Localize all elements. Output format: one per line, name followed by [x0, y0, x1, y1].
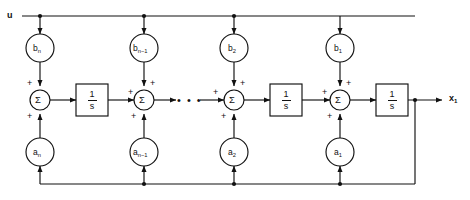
- integrator-label-2: 1 s: [277, 90, 295, 111]
- junction-dot-bottom-2: [232, 182, 236, 186]
- summer-sign-n-1-left: +: [128, 88, 133, 97]
- summer-sign-n-1-top: +: [150, 79, 155, 88]
- gain-subscript: 2: [233, 152, 236, 158]
- junction-dot-top-3: [232, 14, 236, 18]
- gain-label-b-n: bn: [33, 44, 41, 53]
- integrator-numerator: 1: [277, 90, 295, 99]
- gain-label-a-2: a2: [228, 148, 236, 157]
- block-diagram: u x1 bn bn−1 b2 b1 an an−1 a2 a1 Σ Σ Σ Σ…: [0, 0, 470, 200]
- integrator-label-1: 1 s: [83, 90, 101, 111]
- summer-sign-n-1-bottom: +: [131, 112, 136, 121]
- gain-label-a-n-1: an−1: [133, 148, 148, 157]
- summer-sign-1-bottom: +: [327, 112, 332, 121]
- top-input-rail: [22, 16, 415, 34]
- gain-subscript: n: [38, 152, 41, 158]
- summer-sign-1-top: +: [346, 79, 351, 88]
- integrator-denominator: s: [83, 102, 101, 111]
- gain-subscript: 1: [339, 152, 342, 158]
- gain-subscript: 1: [339, 48, 342, 54]
- junction-dot-output-tap: [413, 98, 417, 102]
- gain-subscript: 2: [233, 48, 236, 54]
- junction-dot-top-2: [142, 14, 146, 18]
- gain-subscript: n−1: [138, 152, 148, 158]
- summer-sign-1-left: +: [322, 88, 327, 97]
- output-port-subscript: 1: [454, 97, 457, 104]
- ellipsis-repeated-stages: • • •: [177, 95, 202, 106]
- summer-label-2: Σ: [229, 95, 235, 105]
- summer-sign-n-top: +: [27, 79, 32, 88]
- summer-sign-2-left: +: [213, 88, 218, 97]
- junction-dot-bottom-1: [142, 182, 146, 186]
- gain-label-b-2: b2: [228, 44, 236, 53]
- integrator-label-3: 1 s: [383, 90, 401, 111]
- summer-sign-2-top: +: [240, 79, 245, 88]
- summer-label-n-1: Σ: [139, 95, 145, 105]
- gain-subscript: n: [38, 48, 41, 54]
- summer-label-1: Σ: [335, 95, 341, 105]
- gain-label-a-1: a1: [334, 148, 342, 157]
- integrator-denominator: s: [383, 102, 401, 111]
- junction-dot-top-1: [38, 14, 42, 18]
- summer-sign-2-bottom: +: [221, 112, 226, 121]
- gain-label-b-1: b1: [334, 44, 342, 53]
- summer-label-n: Σ: [35, 95, 41, 105]
- integrator-denominator: s: [277, 102, 295, 111]
- gain-label-a-n: an: [33, 148, 41, 157]
- input-port-label: u: [7, 11, 13, 20]
- integrator-numerator: 1: [83, 90, 101, 99]
- bottom-feedback-rail: [40, 100, 415, 184]
- output-port-label: x1: [449, 94, 457, 103]
- gain-subscript: n−1: [138, 48, 148, 54]
- gain-label-b-n-1: bn−1: [133, 44, 148, 53]
- integrator-numerator: 1: [383, 90, 401, 99]
- summer-sign-n-bottom: +: [27, 112, 32, 121]
- junction-dot-bottom-3: [338, 182, 342, 186]
